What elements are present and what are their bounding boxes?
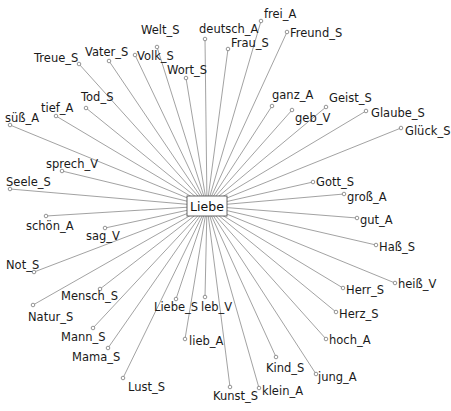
edge-seele-s (10, 189, 207, 206)
node-dot-icon[interactable] (31, 303, 35, 307)
node-dot-icon[interactable] (203, 37, 207, 41)
node-natur-s[interactable]: Natur_S (28, 303, 73, 324)
node-label: Volk_S (137, 49, 174, 63)
node-heiß-v[interactable]: heiß_V (393, 277, 436, 291)
node-dot-icon[interactable] (311, 180, 315, 184)
node-frau-s[interactable]: Frau_S (226, 36, 269, 51)
node-label: klein_A (262, 384, 303, 398)
node-label: jung_A (317, 370, 357, 384)
node-dot-icon[interactable] (393, 281, 397, 285)
node-label: schön_A (26, 219, 74, 233)
node-dot-icon[interactable] (290, 108, 294, 112)
edge-not-s (34, 206, 207, 272)
node-dot-icon[interactable] (257, 386, 261, 390)
node-dot-icon[interactable] (107, 59, 111, 63)
node-liebe-s[interactable]: Liebe_S (154, 297, 198, 314)
node-dot-icon[interactable] (183, 337, 187, 341)
node-herr-s[interactable]: Herr_S (341, 283, 384, 297)
node-klein-a[interactable]: klein_A (257, 384, 303, 398)
node-süß-a[interactable]: süß_A (5, 111, 39, 127)
node-label: Natur_S (28, 310, 73, 324)
node-dot-icon[interactable] (334, 310, 338, 314)
node-freund-s[interactable]: Freund_S (285, 26, 342, 40)
node-label: Not_S (6, 258, 39, 272)
edge-groß-a (207, 194, 344, 206)
node-dot-icon[interactable] (259, 19, 263, 23)
node-label: Kunst_S (213, 389, 258, 403)
node-dot-icon[interactable] (324, 337, 328, 341)
node-volk-s[interactable]: Volk_S (133, 49, 174, 63)
node-label: Mensch_S (61, 289, 118, 303)
node-dot-icon[interactable] (374, 243, 378, 247)
node-dot-icon[interactable] (226, 47, 230, 51)
node-jung-a[interactable]: jung_A (314, 370, 357, 384)
node-dot-icon[interactable] (364, 109, 368, 113)
node-geb-v[interactable]: geb_V (290, 108, 330, 125)
node-label: süß_A (5, 111, 39, 125)
node-label: Kind_S (266, 361, 304, 375)
node-dot-icon[interactable] (355, 216, 359, 220)
node-ganz-a[interactable]: ganz_A (270, 88, 313, 108)
node-dot-icon[interactable] (121, 376, 125, 380)
node-sprech-v[interactable]: sprech_V (46, 157, 98, 173)
edge-herr-s (207, 206, 343, 288)
node-label: ganz_A (272, 88, 313, 102)
node-lieb-a[interactable]: lieb_A (183, 334, 223, 348)
edge-herz-s (207, 206, 336, 312)
node-geist-s[interactable]: Geist_S (324, 91, 372, 109)
node-glück-s[interactable]: Glück_S (399, 124, 450, 138)
node-label: Mann_S (61, 330, 106, 344)
center-node[interactable]: Liebe (187, 196, 227, 216)
node-dot-icon[interactable] (341, 286, 345, 290)
node-schön-a[interactable]: schön_A (26, 214, 74, 233)
node-label: Treue_S (33, 51, 78, 65)
edge-liebe-s (176, 206, 207, 299)
node-welt-s[interactable]: Welt_S (141, 23, 180, 49)
node-dot-icon[interactable] (270, 104, 274, 108)
node-label: Mama_S (72, 350, 120, 364)
node-dot-icon[interactable] (44, 214, 48, 218)
node-groß-a[interactable]: groß_A (342, 190, 387, 204)
edge-hoch-a (207, 206, 326, 339)
node-tief-a[interactable]: tief_A (41, 101, 74, 118)
node-glaube-s[interactable]: Glaube_S (364, 106, 425, 120)
node-wort-s[interactable]: Wort_S (167, 63, 207, 80)
node-dot-icon[interactable] (84, 106, 88, 110)
node-label: Gott_S (316, 175, 354, 189)
node-dot-icon[interactable] (324, 105, 328, 109)
node-frei-a[interactable]: frei_A (259, 7, 296, 23)
node-herz-s[interactable]: Herz_S (334, 307, 378, 321)
node-treue-s[interactable]: Treue_S (33, 51, 81, 66)
node-not-s[interactable]: Not_S (6, 258, 39, 274)
node-leb-v[interactable]: leb_V (201, 295, 232, 314)
node-tod-s[interactable]: Tod_S (80, 90, 113, 110)
node-seele-s[interactable]: Seele_S (6, 175, 51, 191)
node-dot-icon[interactable] (285, 30, 289, 34)
node-dot-icon[interactable] (274, 355, 278, 359)
node-lust-s[interactable]: Lust_S (121, 376, 165, 394)
edge-vater-s (109, 61, 207, 206)
edge-kunst-s (207, 206, 230, 387)
node-mama-s[interactable]: Mama_S (72, 346, 120, 364)
node-gott-s[interactable]: Gott_S (311, 175, 354, 189)
association-diagram: Welt_Sdeutsch_Afrei_AFrau_SFreund_STreue… (0, 0, 451, 411)
center-node-label: Liebe (190, 199, 224, 214)
node-mann-s[interactable]: Mann_S (61, 326, 106, 344)
node-kunst-s[interactable]: Kunst_S (213, 385, 258, 403)
node-label: Vater_S (85, 45, 128, 59)
node-sag-v[interactable]: sag_V (86, 226, 120, 243)
node-kind-s[interactable]: Kind_S (266, 355, 304, 375)
node-label: Liebe_S (154, 300, 198, 314)
node-dot-icon[interactable] (342, 192, 346, 196)
edge-lust-s (123, 206, 207, 378)
edge-treue-s (79, 64, 207, 206)
node-vater-s[interactable]: Vater_S (85, 45, 128, 63)
node-haß-s[interactable]: Haß_S (374, 240, 415, 254)
node-hoch-a[interactable]: hoch_A (324, 333, 370, 347)
node-label: sprech_V (46, 157, 98, 171)
node-dot-icon[interactable] (399, 126, 403, 130)
node-label: Freund_S (290, 26, 342, 40)
node-dot-icon[interactable] (203, 295, 207, 299)
node-gut-a[interactable]: gut_A (355, 213, 393, 227)
node-mensch-s[interactable]: Mensch_S (61, 287, 118, 303)
